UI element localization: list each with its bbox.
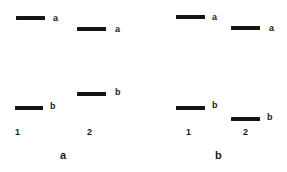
band-lane1-b: [15, 106, 43, 110]
band-lane2-a: [231, 26, 260, 30]
band-lane1-b: [176, 106, 205, 110]
band-label: b: [267, 113, 273, 122]
band-lane2-b: [77, 92, 106, 96]
band-lane1-a: [16, 16, 45, 20]
band-lane2-a: [77, 27, 106, 31]
lane-label-1: 1: [186, 128, 191, 137]
panel-caption: b: [215, 150, 222, 161]
band-label: a: [53, 14, 58, 23]
gel-diagram: a a b b 1 2 a a a b b 1 2 b: [0, 0, 287, 172]
lane-label-2: 2: [87, 128, 92, 137]
band-lane1-a: [176, 15, 205, 19]
band-label: b: [115, 88, 121, 97]
band-label: b: [212, 101, 218, 110]
lane-label-2: 2: [243, 128, 248, 137]
band-label: a: [269, 24, 274, 33]
band-label: a: [212, 13, 217, 22]
band-label: b: [50, 102, 56, 111]
band-lane2-b: [231, 117, 260, 121]
lane-label-1: 1: [15, 128, 20, 137]
panel-caption: a: [60, 150, 66, 161]
band-label: a: [115, 25, 120, 34]
